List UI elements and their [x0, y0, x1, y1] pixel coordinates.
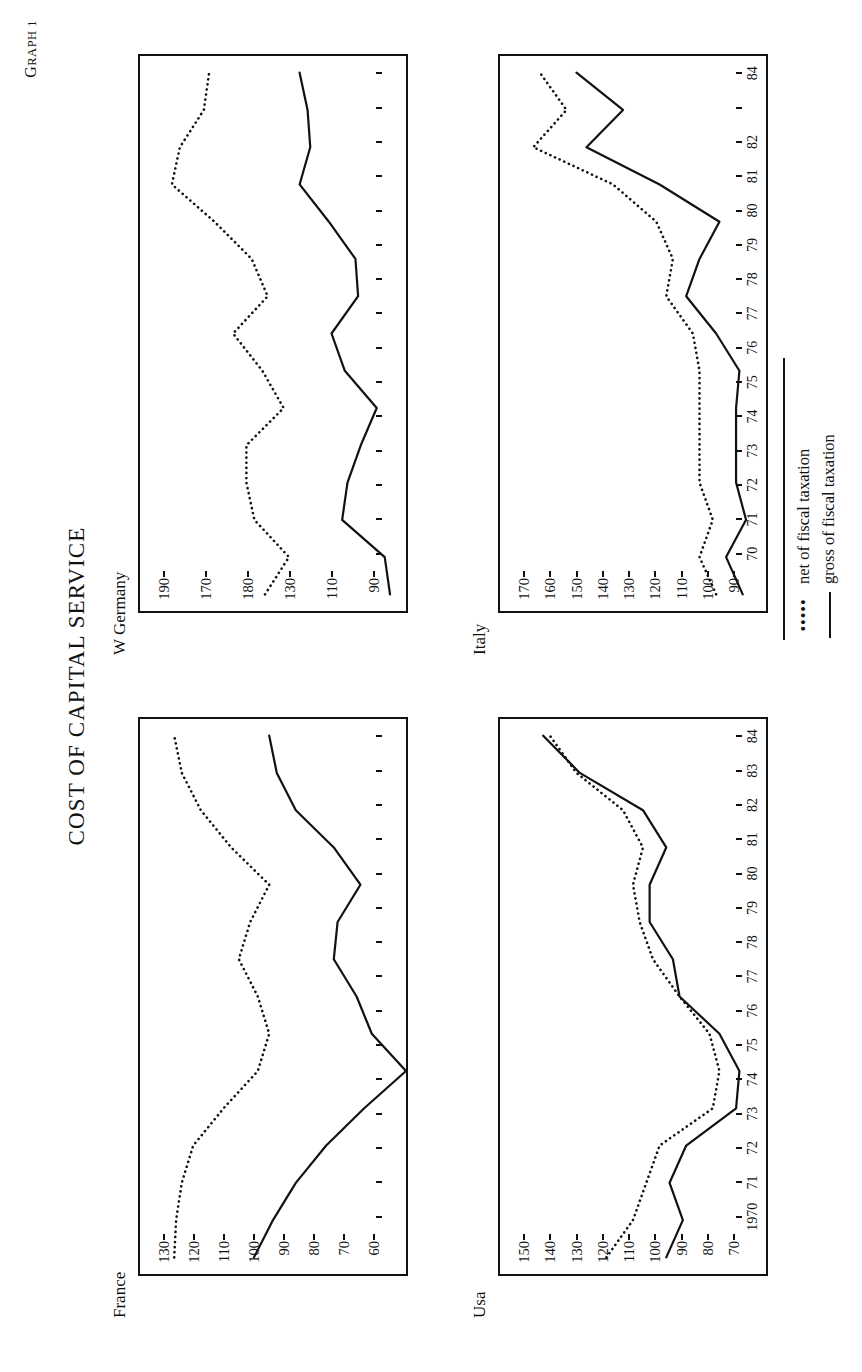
plot-wrapper: 1701601501401301201101009070717273747576…	[498, 54, 768, 613]
x-tick-label: 84	[745, 66, 761, 80]
y-tick-label: 170	[198, 578, 215, 600]
y-tick-mark	[549, 571, 551, 577]
x-tick-label: 73	[745, 444, 761, 458]
y-tick-mark	[733, 1234, 735, 1240]
x-tick-mark	[736, 244, 742, 246]
figure-canvas: GRAPH 1 COST OF CAPITAL SERVICE France13…	[0, 0, 862, 1372]
x-tick-label: 74	[745, 409, 761, 423]
x-tick-label: 77	[745, 970, 761, 984]
y-tick-label: 130	[621, 578, 638, 600]
y-tick-label: 90	[673, 1241, 690, 1256]
x-tick-mark	[736, 941, 742, 943]
x-tick-label: 81	[745, 832, 761, 846]
x-tick-label: 70	[745, 547, 761, 561]
x-tick-mark	[376, 1216, 382, 1218]
y-tick-mark	[628, 571, 630, 577]
y-tick-mark	[576, 1234, 578, 1240]
panel-usa: Usa1501401301201101009080701970717273747…	[472, 713, 802, 1320]
x-tick-mark	[736, 518, 742, 520]
y-tick-mark	[253, 1234, 255, 1240]
y-tick-label: 120	[594, 1241, 611, 1263]
x-tick-mark	[376, 210, 382, 212]
x-tick-mark	[736, 838, 742, 840]
y-tick-mark	[373, 571, 375, 577]
y-axis: 13012011010090807060	[164, 1234, 374, 1276]
x-tick-label: 72	[745, 478, 761, 492]
x-tick-mark	[376, 347, 382, 349]
y-tick-mark	[602, 571, 604, 577]
series-line-net	[533, 73, 716, 595]
x-tick-mark	[736, 1113, 742, 1115]
x-tick-mark	[376, 804, 382, 806]
x-tick-label: 78	[745, 272, 761, 286]
x-tick-label: 73	[745, 1107, 761, 1121]
series-canvas	[140, 56, 406, 611]
x-tick-mark	[376, 1078, 382, 1080]
y-tick-label: 160	[542, 578, 559, 600]
x-tick-mark	[376, 175, 382, 177]
x-tick-mark	[376, 415, 382, 417]
x-tick-mark	[376, 1113, 382, 1115]
plot-area	[138, 717, 408, 1276]
x-tick-mark	[376, 553, 382, 555]
x-axis: 7071727374757677787980818284	[736, 58, 768, 569]
x-tick-mark	[736, 347, 742, 349]
x-tick-mark	[736, 107, 742, 109]
x-tick-mark	[376, 1010, 382, 1012]
x-tick-mark	[736, 72, 742, 74]
x-tick-mark	[376, 518, 382, 520]
legend-item-gross: gross of fiscal taxation	[819, 326, 839, 646]
y-tick-label: 120	[647, 578, 664, 600]
y-tick-label: 190	[156, 578, 173, 600]
y-tick-label: 60	[366, 1241, 383, 1256]
y-tick-mark	[283, 1234, 285, 1240]
y-tick-mark	[205, 571, 207, 577]
legend-item-net: ••••• net of fiscal taxation	[794, 326, 814, 646]
x-tick-label: 76	[745, 341, 761, 355]
plot-area	[498, 54, 768, 613]
y-tick-label: 100	[246, 1241, 263, 1263]
x-tick-label: 82	[745, 135, 761, 149]
y-tick-label: 80	[306, 1241, 323, 1256]
x-axis: 19707172737475767778798081828384	[376, 58, 408, 569]
x-tick-mark	[376, 976, 382, 978]
y-tick-label: 170	[516, 578, 533, 600]
x-tick-mark	[376, 450, 382, 452]
x-tick-label: 79	[745, 238, 761, 252]
x-tick-label: 1970	[745, 1203, 761, 1231]
x-tick-label: 77	[745, 307, 761, 321]
x-tick-label: 71	[745, 512, 761, 526]
y-tick-mark	[654, 571, 656, 577]
x-tick-mark	[376, 72, 382, 74]
y-axis: 19017018013011090	[164, 571, 374, 613]
y-tick-label: 150	[516, 1241, 533, 1263]
rotated-figure: GRAPH 1 COST OF CAPITAL SERVICE France13…	[0, 0, 862, 1372]
y-tick-label: 70	[726, 1241, 743, 1256]
x-tick-mark	[376, 141, 382, 143]
dotted-line-icon: •••••	[796, 584, 812, 646]
y-tick-label: 130	[156, 1241, 173, 1263]
series-line-gross	[576, 73, 746, 595]
y-tick-label: 150	[568, 578, 585, 600]
plot-wrapper: 1901701801301109019707172737475767778798…	[138, 54, 408, 613]
x-tick-mark	[376, 244, 382, 246]
x-tick-mark	[736, 1147, 742, 1149]
x-tick-mark	[736, 976, 742, 978]
panel-title: France	[110, 1272, 130, 1318]
y-tick-label: 100	[647, 1241, 664, 1263]
x-tick-mark	[376, 735, 382, 737]
graph-number-label: GRAPH 1	[22, 20, 40, 78]
y-tick-mark	[163, 1234, 165, 1240]
y-tick-mark	[523, 571, 525, 577]
x-tick-mark	[736, 1181, 742, 1183]
panel-w-germany: W Germany1901701801301109019707172737475…	[112, 50, 442, 657]
y-tick-label: 140	[594, 578, 611, 600]
y-axis: 17016015014013012011010090	[524, 571, 734, 613]
x-tick-mark	[736, 907, 742, 909]
x-tick-mark	[376, 1147, 382, 1149]
x-tick-label: 82	[745, 798, 761, 812]
panel-title: Usa	[470, 1292, 490, 1318]
y-tick-mark	[707, 1234, 709, 1240]
plot-wrapper: 1501401301201101009080701970717273747576…	[498, 717, 768, 1276]
y-tick-label: 90	[366, 578, 383, 593]
